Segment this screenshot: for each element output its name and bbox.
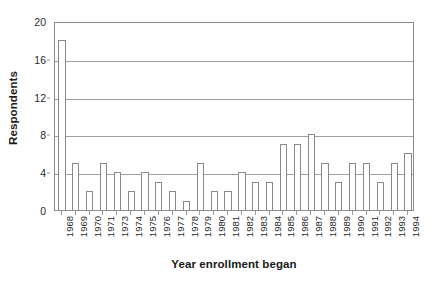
y-axis-tick-mark: [47, 97, 50, 98]
x-axis-title: Year enrollment began: [54, 258, 414, 270]
bar: [114, 172, 121, 210]
bar-chart-figure: Respondents 048121620 196819691970197119…: [0, 0, 440, 283]
x-axis-tick-label: 1975: [148, 216, 158, 237]
x-axis-tick-label: 1970: [93, 216, 103, 237]
bar: [141, 172, 148, 210]
x-axis-tick-mark: [130, 211, 131, 215]
x-axis-tick-label: 1988: [328, 216, 338, 237]
x-axis-tick-mark: [199, 211, 200, 215]
y-axis-title: Respondents: [0, 0, 26, 215]
x-axis-tick-label: 1968: [65, 216, 75, 237]
x-axis-tick-label: 1977: [176, 216, 186, 237]
bar: [183, 201, 190, 210]
x-axis-tick-label: 1971: [106, 216, 116, 237]
x-axis-tick-label: 1985: [286, 216, 296, 237]
bar: [252, 182, 259, 210]
x-axis-tick-mark: [102, 211, 103, 215]
y-axis-tick-label: 16: [34, 54, 46, 66]
x-axis-tick-label: 1989: [342, 216, 352, 237]
x-axis-tick-label: 1969: [79, 216, 89, 237]
y-axis-tick-label: 8: [40, 129, 46, 141]
y-axis-title-text: Respondents: [7, 71, 19, 145]
x-axis-tick-mark: [158, 211, 159, 215]
x-axis-tick-label: 1979: [203, 216, 213, 237]
x-axis-tick-mark: [393, 211, 394, 215]
bar: [238, 172, 245, 210]
x-axis-tick-mark: [241, 211, 242, 215]
x-axis-tick-mark: [172, 211, 173, 215]
x-axis-tick-mark: [296, 211, 297, 215]
x-axis-tick-label: 1974: [134, 216, 144, 237]
x-axis-tick-mark: [255, 211, 256, 215]
x-axis-tick-label: 1984: [273, 216, 283, 237]
x-axis-tick-mark: [186, 211, 187, 215]
x-axis-tick-mark: [61, 211, 62, 215]
bar: [321, 163, 328, 210]
x-axis-tick-label: 1983: [259, 216, 269, 237]
bar: [266, 182, 273, 210]
bar: [86, 191, 93, 210]
x-axis-tick-mark: [407, 211, 408, 215]
x-axis-tick-mark: [116, 211, 117, 215]
bar: [72, 163, 79, 210]
x-axis-tick-mark: [213, 211, 214, 215]
y-axis-tick-mark: [47, 59, 50, 60]
x-axis-tick-mark: [269, 211, 270, 215]
bar: [169, 191, 176, 210]
x-axis-tick-mark: [89, 211, 90, 215]
bar: [280, 144, 287, 210]
y-axis-tick-label: 0: [40, 205, 46, 217]
bar: [294, 144, 301, 210]
x-axis-tick-label: 1982: [245, 216, 255, 237]
bar: [197, 163, 204, 210]
x-axis-tick-mark: [366, 211, 367, 215]
plot-area: [54, 22, 414, 211]
bar: [349, 163, 356, 210]
y-axis-tick-mark: [47, 173, 50, 174]
x-axis-tick-mark: [227, 211, 228, 215]
y-axis-tick-labels: 048121620: [26, 14, 50, 212]
bar: [100, 163, 107, 210]
x-axis-tick-mark: [75, 211, 76, 215]
bar: [58, 40, 65, 210]
x-axis-tick-label: 1994: [411, 216, 421, 237]
x-axis-tick-mark: [338, 211, 339, 215]
bar: [155, 182, 162, 210]
bar: [391, 163, 398, 210]
x-axis-tick-label: 1978: [190, 216, 200, 237]
x-axis-tick-label: 1993: [397, 216, 407, 237]
y-axis-tick-label: 12: [34, 92, 46, 104]
x-axis-tick-mark: [144, 211, 145, 215]
y-axis-tick-label: 20: [34, 16, 46, 28]
x-axis-tick-mark: [310, 211, 311, 215]
bar: [335, 182, 342, 210]
y-axis-tick-label: 4: [40, 167, 46, 179]
x-axis-tick-label: 1980: [217, 216, 227, 237]
x-axis-tick-label: 1981: [231, 216, 241, 237]
bars-layer: [55, 23, 413, 210]
bar: [211, 191, 218, 210]
x-axis-tick-label: 1986: [300, 216, 310, 237]
x-axis-tick-label: 1987: [314, 216, 324, 237]
bar: [377, 182, 384, 210]
x-axis-tick-label: 1976: [162, 216, 172, 237]
x-axis-tick-mark: [352, 211, 353, 215]
bar: [128, 191, 135, 210]
x-axis-tick-label: 1973: [120, 216, 130, 237]
x-axis-tick-label: 1990: [356, 216, 366, 237]
x-axis-tick-mark: [324, 211, 325, 215]
bar: [363, 163, 370, 210]
x-axis-tick-mark: [282, 211, 283, 215]
bar: [308, 134, 315, 210]
x-axis-tick-mark: [379, 211, 380, 215]
bar: [224, 191, 231, 210]
y-axis-tick-mark: [47, 135, 50, 136]
x-axis-tick-label: 1991: [370, 216, 380, 237]
x-axis-tick-label: 1992: [383, 216, 393, 237]
bar: [404, 153, 411, 210]
x-axis-tick-labels: 1968196919701971197319741975197619771978…: [54, 216, 414, 256]
